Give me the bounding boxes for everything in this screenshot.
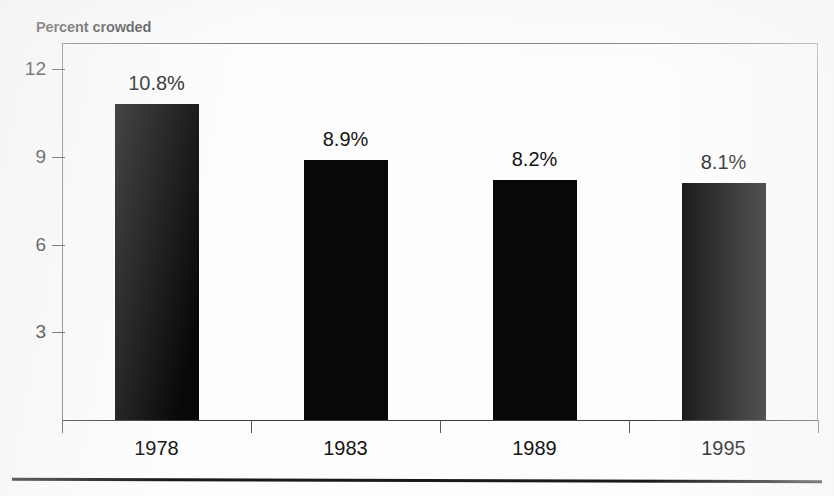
bar xyxy=(115,104,199,420)
y-axis-tick xyxy=(52,157,65,158)
x-axis-divider-tick xyxy=(440,420,441,433)
x-axis-category-label: 1978 xyxy=(87,437,227,460)
y-axis-tick-label: 9 xyxy=(6,146,46,168)
x-axis-divider-tick xyxy=(818,420,819,433)
y-axis-tick-label: 12 xyxy=(6,58,46,80)
y-axis-tick xyxy=(52,245,65,246)
x-axis-category-label: 1983 xyxy=(276,437,416,460)
chart-title-cropped xyxy=(0,0,834,9)
bar xyxy=(682,183,766,420)
bar-value-label: 8.9% xyxy=(276,128,416,151)
x-axis-divider-tick xyxy=(251,420,252,433)
y-axis-title: Percent crowded xyxy=(36,19,151,35)
x-axis-category-label: 1989 xyxy=(465,437,605,460)
bar xyxy=(304,160,388,420)
bar xyxy=(493,180,577,420)
y-axis-tick-label: 6 xyxy=(6,234,46,256)
bar-value-label: 8.1% xyxy=(654,151,794,174)
x-axis-divider-tick xyxy=(62,420,63,433)
y-axis-tick xyxy=(52,332,65,333)
bar-value-label: 8.2% xyxy=(465,148,605,171)
y-axis-tick xyxy=(52,69,65,70)
x-axis-category-label: 1995 xyxy=(654,437,794,460)
y-axis-tick-label: 3 xyxy=(6,321,46,343)
bar-value-label: 10.8% xyxy=(87,72,227,95)
x-axis-divider-tick xyxy=(629,420,630,433)
